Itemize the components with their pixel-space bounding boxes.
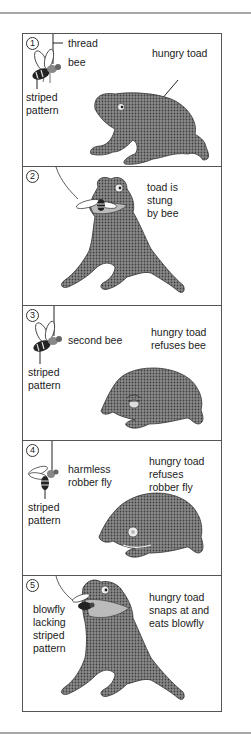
bottom-divider — [0, 732, 251, 734]
caption-line1: hungry toad — [151, 326, 206, 339]
caption-line1: toad is — [147, 181, 178, 194]
hungry-toad-label: hungry toad — [152, 47, 207, 60]
panel-2-illustration — [23, 167, 221, 305]
caption-line3: robber fly — [149, 481, 193, 494]
striped-pattern-label-line2: pattern — [28, 379, 61, 392]
toad-icon — [99, 493, 203, 557]
caption-line1: hungry toad — [149, 455, 204, 468]
blowfly-label-line3: striped — [33, 629, 65, 642]
robber-fly-icon — [27, 464, 58, 490]
blowfly-label-line4: pattern — [33, 642, 66, 655]
caption-line1: hungry toad — [149, 591, 204, 604]
thread-label: thread — [68, 37, 98, 50]
blowfly-label-line2: lacking — [33, 616, 66, 629]
caption-line3: by bee — [147, 207, 179, 220]
caption-line2: snaps at and — [149, 604, 209, 617]
panel-1: 1 thread b — [23, 34, 221, 167]
second-bee-label: second bee — [68, 334, 122, 347]
toad-learning-figure: 1 thread b — [22, 33, 222, 712]
striped-pattern-label-line1: striped — [28, 501, 60, 514]
bee-icon — [31, 48, 61, 83]
striped-pattern-label-line2: pattern — [26, 104, 59, 117]
toad-icon — [90, 93, 208, 164]
blowfly-label-line1: blowfly — [33, 603, 65, 616]
striped-pattern-label-line1: striped — [26, 91, 58, 104]
caption-line3: eats blowfly — [149, 617, 204, 630]
panel-2: 2 toad is stung by bee — [23, 167, 221, 306]
robber-fly-label-line2: robber fly — [68, 476, 112, 489]
panel-3: 3 second bee striped pattern hungry toad… — [23, 306, 221, 441]
panel-4: 4 harmless robber fly striped pattern hu… — [23, 441, 221, 576]
bee-icon — [32, 320, 62, 353]
robber-fly-label-line1: harmless — [68, 463, 111, 476]
panel-5: 5 blowfly lacking striped pattern hungry… — [23, 576, 221, 711]
top-divider — [0, 12, 251, 14]
toad-icon — [101, 368, 203, 428]
striped-pattern-label-line1: striped — [28, 366, 60, 379]
striped-pattern-label-line2: pattern — [28, 514, 61, 527]
caption-line2: refuses — [149, 468, 183, 481]
caption-line2: stung — [147, 194, 173, 207]
caption-line2: refuses bee — [151, 339, 206, 352]
bee-label: bee — [68, 56, 86, 69]
